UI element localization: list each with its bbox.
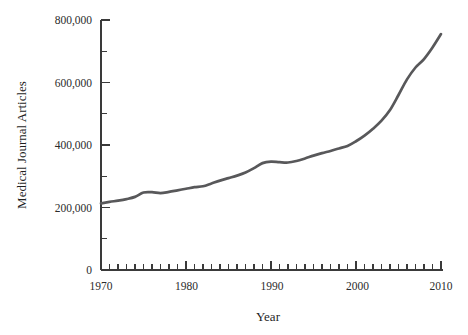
y-axis-major-ticks: [101, 20, 110, 270]
y-tick-label-400000: 400,000: [55, 139, 93, 152]
x-tick-label-2010: 2010: [430, 280, 453, 292]
y-tick-label-0: 0: [86, 264, 92, 276]
x-axis-title: Year: [256, 309, 281, 324]
data-series-line: [101, 34, 441, 203]
chart-container: 800,000 600,000 400,000 200,000 0 1970 1…: [0, 0, 468, 335]
y-tick-label-600000: 600,000: [55, 77, 93, 90]
x-tick-label-2000: 2000: [346, 280, 369, 292]
x-tick-label-1980: 1980: [175, 280, 198, 292]
line-chart: 800,000 600,000 400,000 200,000 0 1970 1…: [0, 0, 468, 335]
y-tick-label-800000: 800,000: [55, 14, 93, 27]
x-axis-ticks: [101, 261, 441, 270]
y-tick-label-200000: 200,000: [55, 202, 93, 215]
x-tick-label-1970: 1970: [90, 280, 113, 292]
x-tick-label-1990: 1990: [261, 280, 284, 292]
y-axis-title: Medical Journal Articles: [14, 81, 29, 209]
